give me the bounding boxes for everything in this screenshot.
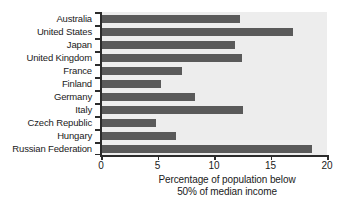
y-axis-label-united-kingdom: United Kingdom	[0, 51, 96, 64]
y-axis-tick	[95, 51, 101, 64]
y-axis-tick	[95, 25, 101, 38]
bar-row	[101, 77, 327, 90]
y-axis-label-italy: Italy	[0, 103, 96, 116]
x-axis-tick-label-10: 10	[208, 161, 219, 171]
bar-row	[101, 129, 327, 142]
y-axis-tick	[95, 103, 101, 116]
bar-series	[101, 12, 327, 155]
y-axis-tick	[95, 129, 101, 142]
x-axis-tick-label-5: 5	[155, 161, 161, 171]
y-axis-label-united-states: United States	[0, 25, 96, 38]
plot-area	[101, 12, 327, 155]
y-axis-label-czech-republic: Czech Republic	[0, 116, 96, 129]
y-axis-tick	[95, 90, 101, 103]
y-axis-tick	[95, 12, 101, 25]
bar-australia	[101, 15, 240, 23]
bar-row	[101, 90, 327, 103]
bar-chart: Australia United States Japan United Kin…	[0, 0, 353, 203]
bar-finland	[101, 80, 161, 88]
bar-row	[101, 64, 327, 77]
y-axis-category-labels: Australia United States Japan United Kin…	[0, 12, 96, 155]
bar-united-kingdom	[101, 54, 242, 62]
x-axis-title-line-2: 50% of median income	[127, 186, 327, 198]
y-axis-label-russian-federation: Russian Federation	[0, 142, 96, 155]
y-axis-label-france: France	[0, 64, 96, 77]
y-axis-tick	[95, 64, 101, 77]
y-axis-ticks	[95, 12, 101, 155]
x-axis-title-line-1: Percentage of population below	[127, 174, 327, 186]
x-axis-tick-label-15: 15	[265, 161, 276, 171]
bar-row	[101, 38, 327, 51]
x-axis-tick-label-0: 0	[98, 161, 104, 171]
bar-row	[101, 25, 327, 38]
y-axis-label-hungary: Hungary	[0, 129, 96, 142]
bar-row	[101, 142, 327, 155]
y-axis-tick	[95, 116, 101, 129]
bar-russian-federation	[101, 145, 312, 153]
bar-row	[101, 12, 327, 25]
y-axis-label-japan: Japan	[0, 38, 96, 51]
bar-row	[101, 51, 327, 64]
bar-row	[101, 103, 327, 116]
x-axis-title: Percentage of population below 50% of me…	[127, 174, 327, 197]
bar-hungary	[101, 132, 176, 140]
y-axis-label-australia: Australia	[0, 12, 96, 25]
bar-row	[101, 116, 327, 129]
y-axis-label-finland: Finland	[0, 77, 96, 90]
y-axis-tick	[95, 38, 101, 51]
bar-italy	[101, 106, 243, 114]
y-axis-tick	[95, 77, 101, 90]
y-axis-tick	[95, 142, 101, 155]
bar-france	[101, 67, 182, 75]
bar-czech-republic	[101, 119, 156, 127]
bar-germany	[101, 93, 195, 101]
y-axis-label-germany: Germany	[0, 90, 96, 103]
x-axis-tick-label-20: 20	[321, 161, 332, 171]
bar-united-states	[101, 28, 293, 36]
bar-japan	[101, 41, 235, 49]
